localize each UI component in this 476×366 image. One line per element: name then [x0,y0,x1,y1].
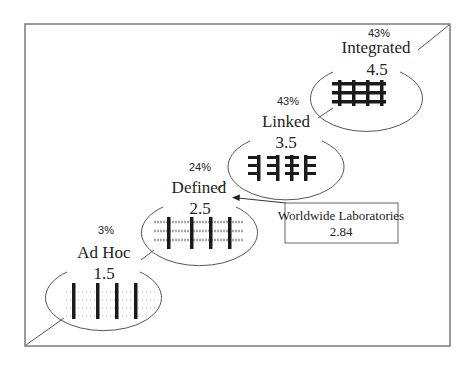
label-defined: Defined [172,178,227,197]
maturity-diagram: 3% Ad Hoc 1.5 24% Defined 2.5 [0,0,476,366]
level-adhoc: 3% Ad Hoc 1.5 [46,224,162,331]
percent-linked: 43% [277,95,299,107]
arrow-head-icon [232,195,240,202]
percent-defined: 24% [189,161,211,173]
level-defined: 24% Defined 2.5 [142,161,258,266]
score-defined: 2.5 [189,199,210,218]
diagonal-line-top [418,25,449,50]
integrated-grid-icon [332,80,386,106]
label-linked: Linked [262,112,311,131]
label-adhoc: Ad Hoc [77,243,131,262]
level-linked: 43% Linked 3.5 [228,95,344,200]
diagonal-line-bottom [26,318,64,345]
level-integrated: 43% Integrated 4.5 [311,27,423,131]
callout-arrow-line [238,198,286,203]
dotted-grid-icon [66,292,155,316]
score-integrated: 4.5 [366,60,387,79]
callout-label: Worldwide Laboratories [278,208,404,223]
label-integrated: Integrated [342,38,411,57]
score-linked: 3.5 [275,133,296,152]
linked-symbols-icon [248,155,316,181]
percent-adhoc: 3% [98,224,114,236]
score-adhoc: 1.5 [93,264,114,283]
callout-value: 2.84 [330,224,353,239]
vertical-bars-icon [72,283,138,319]
